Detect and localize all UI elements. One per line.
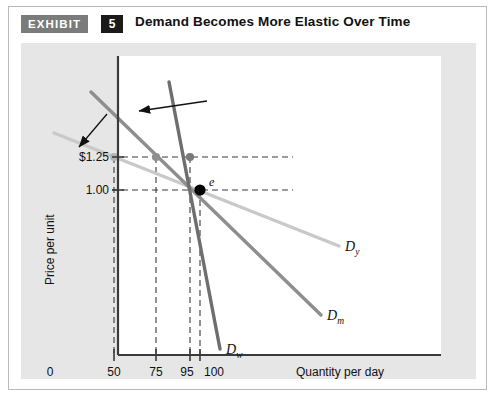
curve-label-dy-sub: y	[355, 247, 359, 257]
marker-dm-at-125	[152, 153, 160, 161]
exhibit-title: Demand Becomes More Elastic Over Time	[135, 14, 410, 29]
x-tick-label-100: 100	[199, 365, 229, 379]
exhibit-header: EXHIBIT 5 Demand Becomes More Elastic Ov…	[9, 7, 486, 41]
marker-dw-at-125	[186, 153, 194, 161]
demand-curves-chart	[21, 43, 476, 379]
curve-dw	[169, 82, 220, 349]
exhibit-number-badge: 5	[101, 15, 123, 33]
y-tick-label-125: $1.25	[53, 150, 109, 164]
equilibrium-label-e: e	[209, 175, 214, 190]
exhibit-frame: EXHIBIT 5 Demand Becomes More Elastic Ov…	[8, 6, 487, 390]
curve-label-dw: Dw	[226, 342, 242, 360]
exhibit-screenshot: EXHIBIT 5 Demand Becomes More Elastic Ov…	[0, 0, 495, 402]
x-tick-label-50: 50	[99, 365, 129, 379]
x-tick-label-75: 75	[141, 365, 171, 379]
curve-label-dm: Dm	[327, 308, 344, 326]
curve-label-dm-base: D	[327, 308, 337, 323]
x-tick-label-0: 0	[35, 365, 65, 379]
curve-label-dy-base: D	[345, 239, 355, 254]
arrow-to-dy-icon	[79, 114, 107, 147]
y-tick-label-100: 1.00	[53, 183, 109, 197]
equilibrium-point-e	[194, 184, 205, 195]
chart-panel: $1.25 1.00 Price per unit 0 50 75 95 100…	[21, 43, 476, 379]
exhibit-badge: EXHIBIT	[21, 15, 88, 33]
curve-label-dw-sub: w	[236, 350, 242, 360]
x-tick-label-95: 95	[174, 365, 200, 379]
curve-label-dw-base: D	[226, 342, 236, 357]
y-axis-title: Price per unit	[43, 214, 57, 285]
x-axis-title: Quantity per day	[296, 365, 384, 379]
curve-label-dm-sub: m	[337, 316, 344, 326]
chart-panel-inner: $1.25 1.00 Price per unit 0 50 75 95 100…	[21, 43, 476, 379]
curve-label-dy: Dy	[345, 239, 359, 257]
